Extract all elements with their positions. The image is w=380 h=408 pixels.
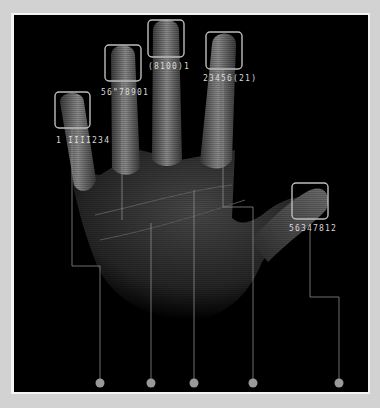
fingertip-label-ring: 56"78901 bbox=[101, 88, 149, 98]
fingertip-label-pinky: 1 IIII234 bbox=[56, 136, 110, 146]
xray-panel: 1 IIII234 56"78901 (8100)1 23456(21) 563… bbox=[14, 15, 368, 392]
marker-dot-index[interactable] bbox=[249, 379, 258, 388]
hand-xray-illustration bbox=[14, 15, 368, 392]
marker-dot-middle[interactable] bbox=[190, 379, 199, 388]
marker-dot-ring[interactable] bbox=[147, 379, 156, 388]
marker-dot-thumb[interactable] bbox=[335, 379, 344, 388]
fingertip-label-index: 23456(21) bbox=[203, 74, 257, 84]
fingertip-label-thumb: 56347812 bbox=[289, 224, 337, 234]
fingertip-label-middle: (8100)1 bbox=[148, 62, 190, 72]
marker-dot-pinky[interactable] bbox=[96, 379, 105, 388]
